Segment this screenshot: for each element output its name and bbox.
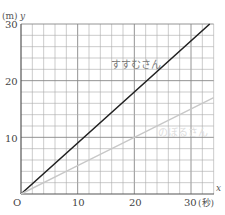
- origin-label: O: [13, 197, 21, 208]
- distance-time-chart: (m) y x O 30 20 10 10 20 30 (秒) すすむさん のぼ…: [0, 0, 225, 215]
- series-label-susumu: すすむさん: [111, 59, 161, 70]
- series-lines: [21, 24, 214, 194]
- y-tick-10: 10: [5, 133, 18, 144]
- series-line-noboru: [21, 98, 214, 194]
- x-tick-10: 10: [72, 197, 85, 208]
- series-line-susumu: [21, 24, 210, 194]
- x-tick-20: 20: [129, 197, 142, 208]
- series-label-noboru: のぼるさん: [158, 127, 208, 138]
- x-unit-label: (秒): [198, 197, 214, 208]
- y-variable-label: y: [19, 11, 26, 21]
- y-tick-20: 20: [5, 76, 18, 87]
- x-tick-30: 30: [184, 197, 197, 208]
- y-tick-30: 30: [5, 19, 18, 30]
- x-variable-label: x: [216, 183, 221, 193]
